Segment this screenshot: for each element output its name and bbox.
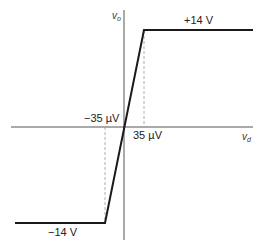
negative-saturation-label: −14 V bbox=[48, 226, 77, 238]
transfer-characteristic-diagram bbox=[0, 0, 264, 246]
x-axis-label-sub: d bbox=[247, 136, 251, 143]
negative-threshold-label: −35 µV bbox=[84, 112, 119, 124]
y-axis-label-sub: o bbox=[117, 15, 121, 22]
positive-saturation-label: +14 V bbox=[184, 14, 213, 26]
x-axis-label: vd bbox=[242, 131, 251, 145]
positive-threshold-label: 35 µV bbox=[133, 129, 162, 141]
y-axis-label: vo bbox=[112, 10, 121, 24]
